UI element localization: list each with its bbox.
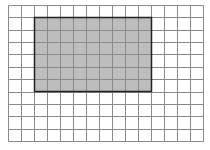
grid-canvas [8,5,204,142]
grid-diagram [8,5,204,142]
